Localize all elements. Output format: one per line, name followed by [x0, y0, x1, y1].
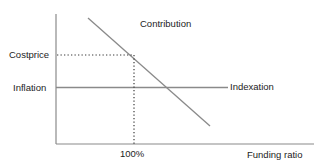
y-tick-label-inflation: Inflation — [13, 82, 46, 93]
y-tick-label-costprice: Costprice — [9, 49, 49, 60]
series-label-indexation: Indexation — [230, 81, 274, 92]
series-label-contribution: Contribution — [140, 18, 191, 29]
contribution-line — [88, 18, 210, 126]
x-tick-label-hundred-percent: 100% — [120, 148, 144, 159]
x-axis-title: Funding ratio — [247, 149, 302, 160]
funding-ratio-diagram: Costprice Inflation Contribution Indexat… — [0, 0, 320, 168]
